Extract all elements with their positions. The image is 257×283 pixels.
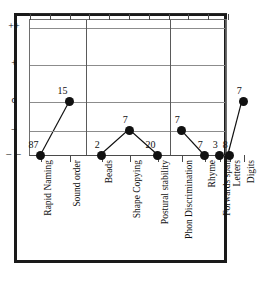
- x-axis-tick-label: Rhyme: [208, 160, 218, 187]
- x-axis-tick-labels: Rapid NamingSound orderBeadsShape Copyin…: [0, 0, 241, 283]
- x-axis-tick-label: Rapid Naming: [44, 160, 54, 216]
- x-axis-tick-label: Postural stability: [161, 160, 171, 224]
- x-axis-tick-label: Letters: [233, 160, 241, 186]
- figure-canvas: +++o–– – 8715272077387 Rapid NamingSound…: [0, 0, 241, 283]
- x-axis-tick-label: Sound order: [73, 160, 83, 207]
- x-axis-tick-label: Beads: [105, 160, 115, 183]
- x-axis-tick-label: Phon Discrimination: [185, 160, 195, 239]
- x-axis-tick-label: Shape Copying: [133, 160, 143, 218]
